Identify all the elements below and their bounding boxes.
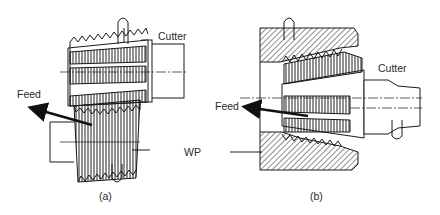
cutter-label-b: Cutter xyxy=(378,62,407,74)
feed-label-b: Feed xyxy=(215,100,239,112)
panel-b-drawing xyxy=(230,18,422,170)
workpiece-label: WP xyxy=(184,146,201,158)
cutter-label-a: Cutter xyxy=(158,30,187,42)
caption-a: (a) xyxy=(99,190,112,202)
caption-b: (b) xyxy=(310,190,323,202)
panel-a-drawing xyxy=(50,18,188,182)
feed-label-a: Feed xyxy=(17,88,41,100)
